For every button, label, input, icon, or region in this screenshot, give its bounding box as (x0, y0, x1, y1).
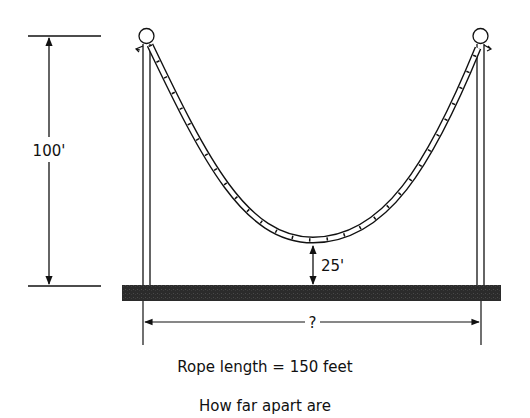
left-rope-knot (136, 46, 143, 52)
sag-label: 25' (321, 257, 344, 275)
right-rope-knot (484, 45, 491, 51)
right-pole-finial (473, 29, 488, 44)
left-pole (136, 29, 154, 287)
rope (150, 45, 478, 240)
right-pole (473, 29, 491, 287)
rope-between-poles-diagram: 100' 25' ? (0, 0, 530, 418)
sag-dimension: 25' (313, 246, 344, 284)
distance-dimension: ? (143, 301, 481, 345)
height-dimension: 100' (28, 36, 101, 286)
question-caption: How far apart are (0, 397, 530, 415)
height-label: 100' (33, 142, 66, 160)
left-pole-finial (139, 29, 154, 44)
distance-label: ? (309, 314, 317, 332)
rope-length-caption: Rope length = 150 feet (0, 358, 530, 376)
ground-bar (122, 285, 501, 301)
